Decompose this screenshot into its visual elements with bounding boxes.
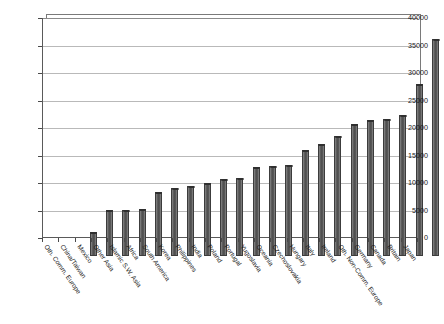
bar-cap xyxy=(318,144,325,146)
x-axis-tick-mark xyxy=(75,238,76,242)
x-axis-tick-mark xyxy=(221,238,222,242)
x-axis-tick-mark xyxy=(368,238,369,242)
x-axis-tick-mark xyxy=(270,238,271,242)
bar xyxy=(351,124,358,256)
x-axis-tick-label: India xyxy=(190,243,204,259)
bar xyxy=(383,119,390,257)
bar-cap xyxy=(90,232,97,234)
y-axis-tick-mark xyxy=(38,183,42,184)
bar-cap xyxy=(433,39,440,41)
bar xyxy=(416,84,423,256)
x-axis-tick-label: Ireland xyxy=(321,243,338,264)
bar-cap xyxy=(286,165,293,167)
plot-area xyxy=(42,18,417,238)
bar-cap xyxy=(106,210,113,212)
x-axis-tick-mark xyxy=(384,238,385,242)
y-axis-tick-mark xyxy=(38,73,42,74)
y-axis-tick-mark xyxy=(38,156,42,157)
x-axis-tick-mark xyxy=(42,238,43,242)
x-axis-ticks xyxy=(42,238,417,242)
bars-group xyxy=(85,36,444,256)
y-axis-tick-mark xyxy=(38,211,42,212)
bar-cap xyxy=(172,188,179,190)
bar xyxy=(432,39,439,256)
y-axis-tick-label: 5000 xyxy=(394,207,428,215)
x-axis-tick-label: Poland xyxy=(206,243,224,264)
x-axis-tick-mark xyxy=(156,238,157,242)
bar-cap xyxy=(123,210,130,212)
bar-cap xyxy=(351,124,358,126)
x-axis-tick-label: Japan xyxy=(402,243,418,262)
y-axis-tick-label: 30000 xyxy=(394,69,428,77)
y-axis-tick-label: 10000 xyxy=(394,179,428,187)
y-axis-tick-mark xyxy=(38,101,42,102)
bar-cap xyxy=(400,115,407,117)
x-axis-tick-mark xyxy=(58,238,59,242)
bar-cap xyxy=(416,84,423,86)
bar-cap xyxy=(384,119,391,121)
y-axis-tick-mark xyxy=(38,18,42,19)
x-axis-tick-mark xyxy=(287,238,288,242)
x-axis-tick-label: Italy xyxy=(304,243,317,257)
bar-cap xyxy=(253,167,260,169)
x-axis-tick-mark xyxy=(124,238,125,242)
x-axis-tick-mark xyxy=(335,238,336,242)
y-axis-tick-label: 25000 xyxy=(394,97,428,105)
x-axis-tick-mark xyxy=(417,238,418,242)
y-axis-tick-label: 35000 xyxy=(394,42,428,50)
x-axis-tick-label: Korea xyxy=(158,243,174,261)
y-axis-tick-mark xyxy=(38,46,42,47)
x-axis-tick-mark xyxy=(303,238,304,242)
bar-cap xyxy=(302,150,309,152)
y-axis-tick-label: 15000 xyxy=(394,152,428,160)
x-axis-tick-mark xyxy=(172,238,173,242)
x-axis-tick-mark xyxy=(238,238,239,242)
x-axis-tick-label: Africa xyxy=(125,243,140,261)
x-axis-tick-mark xyxy=(254,238,255,242)
x-axis-labels: Oth. Comm. EuropeChina/TaiwanMexicoOther… xyxy=(42,243,422,323)
gridline xyxy=(43,18,418,19)
y-axis-tick-mark xyxy=(38,128,42,129)
bar-cap xyxy=(221,179,228,181)
x-axis-tick-label: Mexico xyxy=(76,243,94,264)
x-axis-tick-mark xyxy=(319,238,320,242)
x-axis-tick-label: Britain xyxy=(386,243,402,262)
bar-cap xyxy=(204,183,211,185)
x-axis-tick-mark xyxy=(401,238,402,242)
x-axis-tick-mark xyxy=(107,238,108,242)
y-axis-tick-label: 20000 xyxy=(394,124,428,132)
bar-cap xyxy=(155,192,162,194)
x-axis-tick-mark xyxy=(189,238,190,242)
bar-cap xyxy=(335,136,342,138)
bar-cap xyxy=(367,120,374,122)
bar-cap xyxy=(139,209,146,211)
bar xyxy=(367,120,374,256)
x-axis-tick-mark xyxy=(352,238,353,242)
x-axis-tick-mark xyxy=(205,238,206,242)
bar-cap xyxy=(237,178,244,180)
x-axis-tick-mark xyxy=(91,238,92,242)
y-axis-tick-label: 40000 xyxy=(394,14,428,22)
bar-cap xyxy=(270,166,277,168)
bar-cap xyxy=(188,186,195,188)
x-axis-tick-mark xyxy=(140,238,141,242)
